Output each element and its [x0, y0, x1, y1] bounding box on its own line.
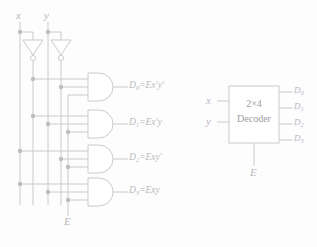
block-output-label-d3: D3 — [294, 134, 304, 143]
output-equation-d1-expr: =Ex′y — [139, 117, 162, 127]
inverter-x-gate — [23, 40, 43, 205]
and-gate-d2 — [18, 145, 128, 173]
output-equation-d2-expr: =Exy′ — [139, 152, 162, 162]
output-equation-d1-index: 1 — [136, 121, 139, 128]
block-enable-label: E — [250, 167, 257, 178]
block-output-d2-name: D — [294, 117, 301, 127]
output-equation-d2-index: 2 — [136, 156, 139, 163]
input-label-y: y — [44, 10, 49, 21]
block-output-label-d1: D1 — [294, 102, 304, 111]
output-equation-d1: D1=Ex′y — [129, 118, 162, 128]
output-equation-d3: D3=Exy — [129, 186, 160, 196]
input-stems — [20, 22, 48, 32]
output-equation-d2-name: D — [129, 152, 136, 162]
output-equation-d1-name: D — [129, 117, 136, 127]
output-equation-d3-expr: =Exy — [139, 185, 160, 195]
output-equation-d0: D0=Ex′y′ — [129, 81, 164, 91]
block-input-label-y: y — [206, 116, 211, 127]
block-output-d2-index: 2 — [301, 121, 304, 128]
output-equation-d0-name: D — [129, 80, 136, 90]
output-equation-d2: D2=Exy′ — [129, 153, 162, 163]
enable-label-circuit: E — [64, 216, 71, 227]
output-equation-d3-index: 3 — [136, 189, 139, 196]
block-output-d3-name: D — [294, 133, 301, 143]
output-equation-d0-index: 0 — [136, 84, 139, 91]
block-title-line1: 2×4 — [229, 98, 279, 110]
block-output-label-d2: D2 — [294, 118, 304, 127]
block-input-label-x: x — [206, 95, 211, 106]
block-output-d0-index: 0 — [301, 89, 304, 96]
block-output-label-d0: D0 — [294, 86, 304, 95]
output-equation-d3-name: D — [129, 185, 136, 195]
decoder-figure: .w{stroke:#cacace;stroke-width:1;fill:no… — [0, 0, 317, 247]
block-output-d1-name: D — [294, 101, 301, 111]
input-label-x: x — [16, 10, 21, 21]
block-output-d3-index: 3 — [301, 137, 304, 144]
block-output-d0-name: D — [294, 85, 301, 95]
output-equation-d0-expr: =Ex′y′ — [139, 80, 164, 90]
block-output-d1-index: 1 — [301, 105, 304, 112]
block-title-line2: Decoder — [229, 113, 279, 125]
and-gate-d3 — [18, 178, 128, 206]
and-gate-d1 — [31, 110, 128, 138]
